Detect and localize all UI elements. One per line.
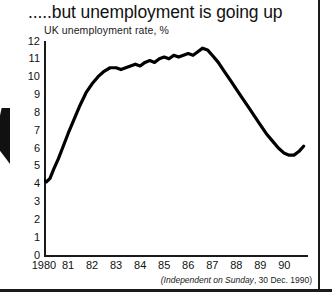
x-axis-line [44, 255, 308, 257]
x-axis-tick-87: 87 [202, 259, 222, 271]
x-axis-tick-82: 82 [82, 259, 102, 271]
x-axis-tick-83: 83 [106, 259, 126, 271]
y-axis-tick-3: 3 [14, 196, 40, 207]
x-axis-tick-81: 81 [58, 259, 78, 271]
x-axis-tick-1980: 1980 [27, 259, 61, 271]
y-axis-tick-labels: 1211109876543210 [10, 0, 40, 296]
chart-subtitle: UK unemployment rate, % [44, 24, 169, 36]
y-axis-tick-10: 10 [14, 71, 40, 82]
chart-figure: .....but unemployment is going up UK une… [0, 0, 332, 296]
unemployment-line-series [44, 41, 306, 255]
y-axis-tick-4: 4 [14, 178, 40, 189]
y-axis-tick-5: 5 [14, 160, 40, 171]
source-credit: (Independent on Sunday, 30 Dec. 1990) [160, 275, 312, 285]
column-rule-right [318, 0, 320, 290]
source-publication: (Independent on Sunday [161, 275, 254, 285]
y-axis-tick-12: 12 [14, 36, 40, 47]
x-axis-tick-85: 85 [154, 259, 174, 271]
x-axis-tick-84: 84 [130, 259, 150, 271]
x-axis-tick-88: 88 [226, 259, 246, 271]
y-axis-tick-11: 11 [14, 53, 40, 64]
y-axis-tick-7: 7 [14, 125, 40, 136]
x-axis-tick-90: 90 [274, 259, 294, 271]
y-axis-tick-9: 9 [14, 89, 40, 100]
chart-headline: .....but unemployment is going up [28, 2, 313, 22]
y-axis-tick-6: 6 [14, 143, 40, 154]
source-date: , 30 Dec. 1990) [254, 275, 312, 285]
x-axis-tick-86: 86 [178, 259, 198, 271]
series-line-path [44, 48, 304, 182]
y-axis-tick-1: 1 [14, 232, 40, 243]
x-axis-tick-89: 89 [250, 259, 270, 271]
plot-area [44, 41, 306, 255]
y-axis-tick-2: 2 [14, 214, 40, 225]
ink-bleed-fragment [0, 108, 10, 164]
column-rule-bottom [0, 289, 332, 292]
y-axis-tick-8: 8 [14, 107, 40, 118]
